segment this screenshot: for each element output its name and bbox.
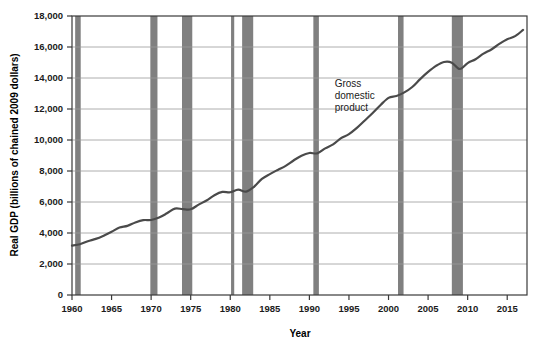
y-axis-tick-label: 12,000 (34, 103, 63, 114)
recession-band (231, 16, 234, 295)
x-axis-tick-label: 1990 (299, 303, 320, 314)
recession-band (452, 16, 463, 295)
x-axis-tick-label: 1975 (180, 303, 202, 314)
recession-band (242, 16, 253, 295)
recession-band (313, 16, 319, 295)
chart-canvas: 02,0004,0006,0008,00010,00012,00014,0001… (0, 0, 548, 346)
y-axis-tick-label: 4,000 (39, 227, 63, 238)
y-axis-tick-label: 16,000 (34, 41, 63, 52)
x-axis-tick-label: 1965 (101, 303, 123, 314)
x-axis-tick-label: 2005 (418, 303, 440, 314)
series-annotation-line: Gross (335, 78, 362, 89)
x-axis-tick-label: 1980 (220, 303, 241, 314)
y-axis-tick-label: 10,000 (34, 134, 63, 145)
x-axis-tick-label: 1995 (338, 303, 360, 314)
x-axis-title: Year (289, 328, 310, 339)
recession-band (398, 16, 404, 295)
y-axis-tick-label: 6,000 (39, 196, 63, 207)
x-axis: 1960196519701975198019851990199520002005… (61, 295, 518, 314)
x-axis-tick-label: 1960 (61, 303, 82, 314)
series-annotation-line: product (335, 102, 369, 113)
y-axis-tick-label: 18,000 (34, 10, 63, 21)
y-axis-tick-label: 14,000 (34, 72, 63, 83)
recession-band (150, 16, 157, 295)
x-axis-tick-label: 2010 (457, 303, 478, 314)
x-axis-tick-label: 2015 (497, 303, 519, 314)
x-axis-tick-label: 2000 (378, 303, 399, 314)
y-axis-tick-label: 8,000 (39, 165, 63, 176)
y-axis-tick-label: 2,000 (39, 258, 63, 269)
recession-band (75, 16, 81, 295)
y-axis-tick-label: 0 (58, 289, 63, 300)
x-axis-tick-label: 1985 (259, 303, 281, 314)
y-axis: 02,0004,0006,0008,00010,00012,00014,0001… (34, 10, 72, 300)
y-axis-title: Real GDP (billions of chained 2009 dolla… (9, 53, 20, 256)
x-axis-tick-label: 1970 (141, 303, 162, 314)
real-gdp-chart-figure: 02,0004,0006,0008,00010,00012,00014,0001… (0, 0, 548, 346)
recession-band (182, 16, 192, 295)
series-annotation-line: domestic (335, 90, 375, 101)
